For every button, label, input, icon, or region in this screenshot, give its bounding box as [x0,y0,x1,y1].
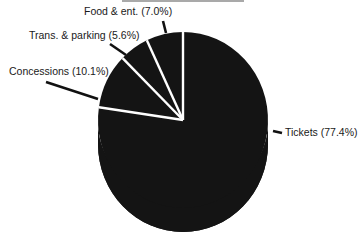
label-food-ent: Food & ent. (7.0%) [84,5,172,17]
label-trans-parking: Trans. & parking (5.6%) [29,29,140,41]
pie-chart: Food & ent. (7.0%) Trans. & parking (5.6… [0,0,360,246]
leader-food-ent [163,21,166,33]
label-concessions: Concessions (10.1%) [9,65,109,77]
label-tickets: Tickets (77.4%) [285,126,358,138]
leader-trans-parking [110,44,126,55]
leader-tickets [273,131,282,133]
leader-concessions [46,82,98,99]
pie-body [98,32,268,232]
